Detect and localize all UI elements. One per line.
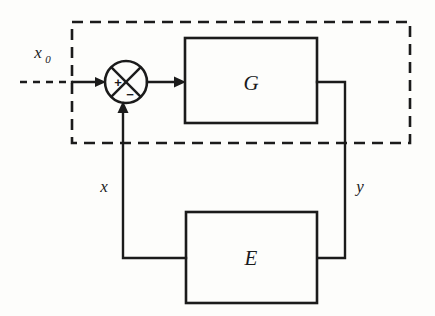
- minus-sign: −: [126, 87, 134, 102]
- output-signal-label: y: [354, 177, 364, 196]
- feedback-signal-label: x: [99, 177, 108, 196]
- input-signal-label: x: [33, 43, 42, 62]
- plus-sign: +: [114, 75, 122, 90]
- block-e-label: E: [244, 246, 258, 270]
- input-signal-subscript: 0: [45, 53, 51, 65]
- block-g-label: G: [243, 71, 258, 95]
- feedback-wire: [123, 109, 186, 258]
- block-diagram-svg: + − G E x 0 x y: [0, 0, 435, 316]
- block-diagram-canvas: + − G E x 0 x y: [0, 0, 435, 316]
